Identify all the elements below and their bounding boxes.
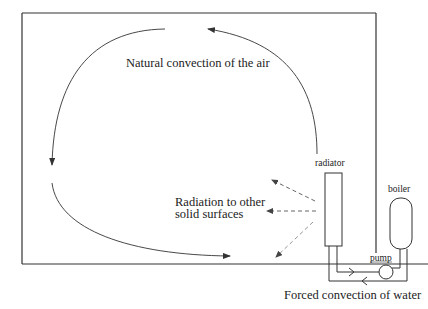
radiation-arrows [267, 180, 316, 257]
natural-convection-label: Natural convection of the air [126, 57, 270, 70]
pump-label: pump [370, 254, 392, 264]
forced-convection-label: Forced convection of water [284, 289, 421, 302]
heating-diagram [0, 0, 428, 309]
room-walls [22, 13, 428, 264]
radiator-shape [325, 173, 342, 246]
boiler-shape [390, 198, 412, 249]
radiator-label: radiator [315, 159, 345, 169]
pump-shape [379, 265, 393, 279]
radiation-label-line2: solid surfaces [175, 208, 243, 221]
boiler-label: boiler [388, 185, 410, 195]
water-flow-arrows [349, 268, 367, 285]
